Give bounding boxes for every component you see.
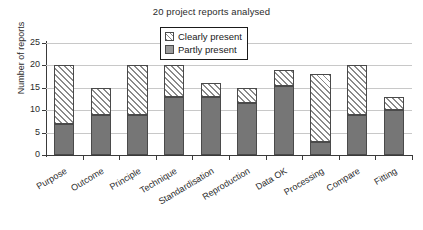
bar-segment-partly-present[interactable] — [54, 124, 74, 155]
legend-swatch-solid-icon — [165, 45, 174, 54]
bar-stack[interactable] — [127, 43, 147, 155]
bar-segment-partly-present[interactable] — [91, 115, 111, 155]
x-tick-mark — [375, 156, 376, 160]
y-tick-label: 0 — [14, 150, 40, 159]
bar-stack[interactable] — [310, 43, 330, 155]
x-tick-mark — [119, 156, 120, 160]
bar-segment-clearly-present[interactable] — [127, 65, 147, 114]
y-tick-label: 5 — [14, 128, 40, 137]
bar-segment-clearly-present[interactable] — [54, 65, 74, 123]
bar-stack[interactable] — [274, 43, 294, 155]
x-tick-mark — [192, 156, 193, 160]
legend-label: Clearly present — [178, 31, 242, 42]
bar-segment-partly-present[interactable] — [164, 97, 184, 155]
bar-segment-partly-present[interactable] — [127, 115, 147, 155]
bar-segment-clearly-present[interactable] — [237, 88, 257, 104]
x-tick-mark — [302, 156, 303, 160]
bar-stack[interactable] — [384, 43, 404, 155]
legend-swatch-hatched-icon — [165, 32, 174, 41]
bar-segment-partly-present[interactable] — [310, 142, 330, 155]
bar-segment-clearly-present[interactable] — [164, 65, 184, 96]
bar-segment-clearly-present[interactable] — [384, 97, 404, 110]
x-tick-mark — [83, 156, 84, 160]
y-tick-label: 20 — [14, 60, 40, 69]
chart-title: 20 project reports analysed — [0, 6, 423, 17]
bar-segment-partly-present[interactable] — [274, 86, 294, 155]
x-tick-mark — [229, 156, 230, 160]
bar-segment-clearly-present[interactable] — [91, 88, 111, 115]
bar-segment-clearly-present[interactable] — [201, 83, 221, 96]
bar-stack[interactable] — [54, 43, 74, 155]
bar-stack[interactable] — [91, 43, 111, 155]
legend-item-partly-present: Partly present — [165, 43, 242, 56]
y-axis-title: Number of reports — [16, 0, 26, 118]
x-tick-mark — [412, 156, 413, 160]
bar-segment-partly-present[interactable] — [384, 110, 404, 155]
legend-label: Partly present — [178, 44, 237, 55]
x-tick-mark — [266, 156, 267, 160]
bar-chart: 20 project reports analysed Number of re… — [0, 0, 423, 230]
x-tick-mark — [156, 156, 157, 160]
x-tick-mark — [339, 156, 340, 160]
bar-segment-clearly-present[interactable] — [347, 65, 367, 114]
bar-segment-partly-present[interactable] — [201, 97, 221, 155]
y-tick-label: 15 — [14, 83, 40, 92]
bar-segment-clearly-present[interactable] — [310, 74, 330, 141]
bar-segment-partly-present[interactable] — [347, 115, 367, 155]
legend-item-clearly-present: Clearly present — [165, 30, 242, 43]
bar-segment-partly-present[interactable] — [237, 103, 257, 155]
bar-segment-clearly-present[interactable] — [274, 70, 294, 86]
y-tick-label: 10 — [14, 105, 40, 114]
y-tick-mark — [42, 155, 46, 156]
bar-stack[interactable] — [347, 43, 367, 155]
y-tick-label: 25 — [14, 38, 40, 47]
chart-legend: Clearly present Partly present — [160, 27, 248, 60]
